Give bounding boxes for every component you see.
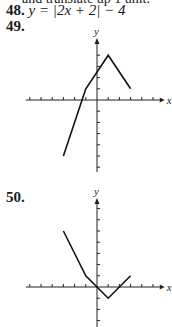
problem-50-number: 50. bbox=[6, 189, 25, 206]
svg-text:y: y bbox=[93, 25, 99, 37]
svg-text:y: y bbox=[93, 185, 99, 197]
graph-49: xyxy bbox=[0, 0, 172, 327]
svg-text:x: x bbox=[166, 281, 172, 293]
svg-text:x: x bbox=[166, 94, 172, 106]
